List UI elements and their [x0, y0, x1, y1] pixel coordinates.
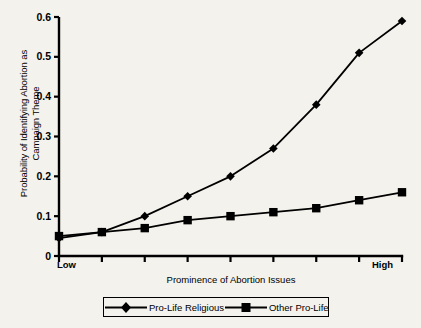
data-point-square [183, 216, 191, 224]
series-line [59, 21, 402, 238]
y-axis-tick-label: 0.6 [36, 11, 51, 23]
data-point-square [355, 196, 363, 204]
data-point-square [55, 232, 63, 240]
data-point-square [269, 208, 277, 216]
y-axis-tick-label: 0 [45, 250, 51, 262]
data-point-square [141, 224, 149, 232]
data-point-square [98, 228, 106, 236]
data-point-square [312, 204, 320, 212]
chart-legend: Pro-Life Religious Other Pro-Life [103, 297, 329, 317]
y-axis-tick-label: 0.4 [36, 90, 51, 102]
series-1 [55, 17, 407, 243]
data-point-square [226, 212, 234, 220]
y-axis-tick-label: 0.2 [36, 170, 51, 182]
x-axis-high-label: High [372, 259, 393, 270]
legend-label-other-pro-life: Other Pro-Life [268, 302, 329, 313]
y-axis-tick-label: 0.3 [36, 130, 51, 142]
data-point-diamond [183, 192, 192, 201]
legend-item-other-pro-life: Other Pro-Life [224, 301, 329, 314]
chart-figure: Probability of Identifying Abortion as C… [0, 0, 421, 328]
y-axis-tick-label: 0.1 [36, 210, 51, 222]
data-point-square [398, 188, 406, 196]
diamond-marker-icon [104, 301, 148, 314]
y-axis-tick-label: 0.5 [36, 50, 51, 62]
legend-item-pro-life-religious: Pro-Life Religious [104, 301, 224, 314]
series-2 [55, 188, 406, 240]
x-axis-title: Prominence of Abortion Issues [59, 274, 403, 285]
legend-label-pro-life-religious: Pro-Life Religious [148, 302, 224, 313]
x-axis-low-label: Low [57, 259, 76, 270]
data-point-diamond [140, 212, 149, 221]
square-marker-icon [224, 301, 268, 314]
